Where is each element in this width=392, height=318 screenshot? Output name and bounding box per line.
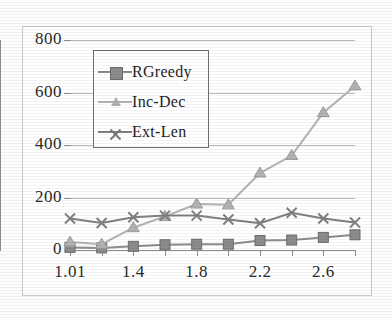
legend-swatch-extlen <box>98 125 132 139</box>
legend-label-extlen: Ext-Len <box>132 123 187 141</box>
legend-item-incdec: Inc-Dec <box>94 87 208 117</box>
square-marker <box>192 239 202 249</box>
legend-item-rgreedy: RGreedy <box>94 57 208 87</box>
square-marker <box>255 236 265 246</box>
chart-legend: RGreedy Inc-Dec Ext-Len <box>93 50 209 148</box>
square-marker <box>318 232 328 242</box>
legend-label-rgreedy: RGreedy <box>132 63 192 81</box>
triangle-marker <box>64 236 76 246</box>
series-line <box>70 213 355 224</box>
square-icon <box>110 67 123 80</box>
triangle-marker <box>254 167 266 177</box>
square-marker <box>350 230 360 240</box>
legend-swatch-incdec <box>98 95 132 109</box>
square-marker <box>287 235 297 245</box>
square-marker <box>223 239 233 249</box>
x-marker-icon <box>110 126 121 137</box>
series-layer <box>0 0 392 318</box>
legend-label-incdec: Inc-Dec <box>132 93 186 111</box>
triangle-marker <box>349 80 361 90</box>
series-line <box>70 235 355 248</box>
square-marker <box>128 241 138 251</box>
triangle-icon <box>111 97 121 106</box>
chart-figure: 0200400600800 1.011.41.82.22.6 RGreedy I… <box>0 0 392 318</box>
legend-item-extlen: Ext-Len <box>94 117 208 147</box>
triangle-marker <box>191 198 203 208</box>
square-marker <box>160 240 170 250</box>
legend-swatch-rgreedy <box>98 65 132 79</box>
series-extlen <box>65 208 360 229</box>
